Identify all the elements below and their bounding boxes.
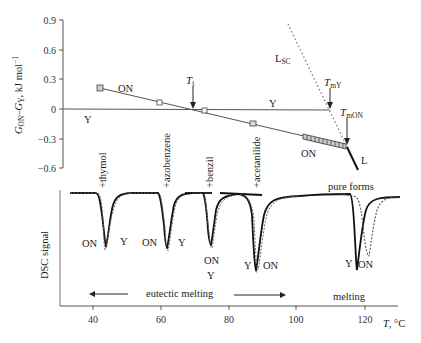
peak-label: Y <box>178 237 186 248</box>
y-right-label: Y <box>269 98 277 109</box>
peak-label: ON <box>263 260 279 271</box>
ytick-label: 0.3 <box>44 74 57 85</box>
benzil-peaks <box>185 193 238 248</box>
dsc-y-axis-label: DSC signal <box>39 231 50 279</box>
data-marker <box>97 85 103 91</box>
x-axis-label: T, °C <box>383 318 405 329</box>
ytick-label: −0.3 <box>38 134 56 145</box>
azobenzene-label: +azobenzene <box>161 133 172 188</box>
top-y-tick-labels: 0.9 0.6 0.3 0 −0.3 −0.6 <box>38 15 56 174</box>
data-marker <box>157 100 162 105</box>
xtick-label: 40 <box>88 314 98 325</box>
top-y-ticks <box>59 20 63 168</box>
xtick-label: 60 <box>156 314 166 325</box>
pure-forms-label: pure forms <box>328 181 374 192</box>
peak-label: Y <box>345 258 353 269</box>
tmon-label: TmON <box>340 106 363 120</box>
peak-label: ON <box>142 237 158 248</box>
tmon-arrow <box>344 118 350 145</box>
on-upper-label: ON <box>118 83 134 94</box>
lsc-label: LSC <box>275 53 291 66</box>
acetanilide-label: +acetanilide <box>251 136 262 188</box>
top-y-axis-label: GON–GY, kJ mol−1 <box>11 56 26 134</box>
eutectic-left-arrow <box>89 291 128 297</box>
peak-label: ON <box>204 255 220 266</box>
peak-label: ON <box>358 259 374 270</box>
tt-label: Tt <box>186 74 195 88</box>
peak-label: Y <box>244 260 252 271</box>
tmy-arrow <box>327 88 333 109</box>
xtick-label: 120 <box>358 314 373 325</box>
top-plot: 0.9 0.6 0.3 0 −0.3 −0.6 GON–GY, kJ mol−1 <box>11 15 367 174</box>
l-label: L <box>361 155 367 166</box>
xtick-label: 80 <box>224 314 234 325</box>
on-lower-label: ON <box>301 148 317 159</box>
chart-figure: 0.9 0.6 0.3 0 −0.3 −0.6 GON–GY, kJ mol−1 <box>0 0 421 343</box>
peak-label: Y <box>120 236 128 247</box>
x-tick-labels: 40 60 80 100 120 <box>88 314 373 325</box>
ytick-label: 0 <box>51 104 56 115</box>
eutectic-melting-label: eutectic melting <box>146 288 214 299</box>
ytick-label: 0.6 <box>44 45 57 56</box>
acetanilide-peaks <box>220 193 300 270</box>
thymol-label: +thymol <box>97 152 108 188</box>
benzil-label: +benzil <box>204 156 215 188</box>
melting-label: melting <box>333 291 366 302</box>
ytick-label: 0.9 <box>44 15 57 26</box>
x-ticks <box>93 306 365 310</box>
ytick-label: −0.6 <box>38 163 56 174</box>
xtick-label: 100 <box>289 314 304 325</box>
data-marker <box>250 121 256 126</box>
data-marker <box>202 108 207 113</box>
y-form-line <box>63 109 330 110</box>
tmy-label: TmY <box>324 76 342 90</box>
on-hatched-segment <box>303 134 346 149</box>
eutectic-right-arrow <box>234 292 286 298</box>
peak-label: ON <box>82 238 98 249</box>
dsc-plot: 40 60 80 100 120 T, °C DSC signal <box>39 133 405 329</box>
liquid-line <box>347 147 358 170</box>
peak-label: Y <box>207 270 215 281</box>
tt-arrow <box>190 86 196 109</box>
y-left-label: Y <box>84 114 92 125</box>
